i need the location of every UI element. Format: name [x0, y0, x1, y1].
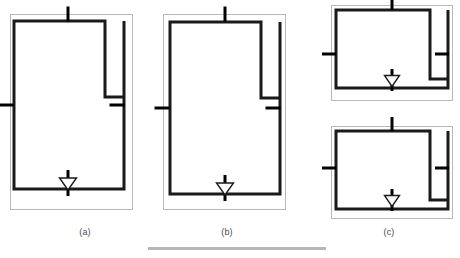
triangle-marker-c-top [385, 76, 400, 87]
panel-b [155, 7, 286, 210]
figure-canvas [0, 0, 460, 258]
wall-outline-b [170, 22, 280, 194]
panel-caption-c: (c) [364, 227, 414, 237]
wall-outline-a [14, 21, 124, 189]
triangle-marker-c-bottom [385, 196, 400, 207]
panel-caption-a: (a) [60, 227, 110, 237]
panel-a [0, 7, 133, 210]
panel-c-bottom [322, 117, 453, 219]
panel-c-top [322, 0, 453, 101]
panel-caption-b: (b) [202, 227, 252, 237]
floor-plan-diagram [0, 0, 460, 258]
footer-divider-rule [148, 247, 326, 250]
